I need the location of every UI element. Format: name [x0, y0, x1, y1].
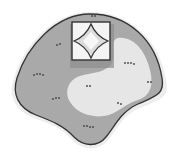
- island-map: [0, 0, 181, 165]
